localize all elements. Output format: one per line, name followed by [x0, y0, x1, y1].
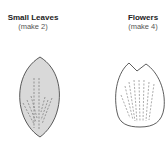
flower-petal-shape — [116, 63, 165, 127]
small-leaf-shape — [20, 57, 60, 137]
template-diagram — [0, 0, 168, 162]
